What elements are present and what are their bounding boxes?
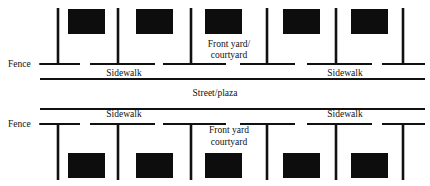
building-footprint [283,153,320,178]
building-footprint [68,9,105,34]
building-footprint [205,9,242,34]
building-footprint [205,153,242,178]
label-sidewalk-bottom-right: Sidewalk [327,109,363,119]
label-front-yard-top-line1: Front yard/ [208,39,251,49]
building-footprint [351,9,388,34]
label-fence-top: Fence [8,59,31,69]
building-footprint [136,153,173,178]
label-front-yard-bottom-line1: Front yard [209,125,249,135]
building-footprint [351,153,388,178]
label-sidewalk-top-right: Sidewalk [327,68,363,78]
building-footprint [283,9,320,34]
label-front-yard-top-line2: courtyard [211,50,248,60]
label-sidewalk-bottom-left: Sidewalk [106,109,142,119]
street-edge-diagram: Fence Fence Sidewalk Sidewalk Sidewalk S… [0,0,430,186]
label-street-plaza: Street/plaza [193,88,239,98]
label-front-yard-bottom-line2: courtyard [211,137,248,147]
diagram-canvas: Fence Fence Sidewalk Sidewalk Sidewalk S… [0,0,430,186]
top-building-row [68,9,388,34]
label-sidewalk-top-left: Sidewalk [106,68,142,78]
building-footprint [68,153,105,178]
building-footprint [136,9,173,34]
bottom-building-row [68,153,388,178]
label-fence-bottom: Fence [8,119,31,129]
